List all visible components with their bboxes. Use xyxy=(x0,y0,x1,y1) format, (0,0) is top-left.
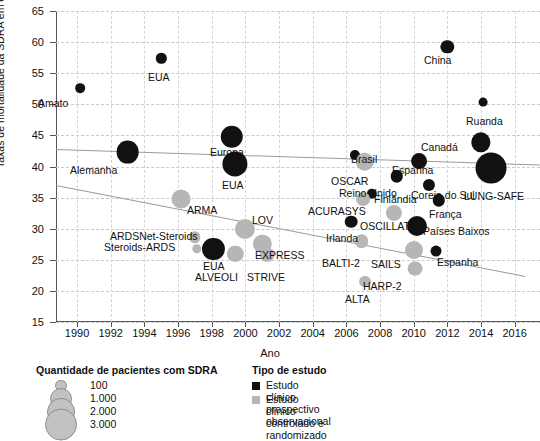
data-point-bubble[interactable] xyxy=(345,216,358,229)
data-point-bubble[interactable] xyxy=(221,125,243,147)
x-tick-label: 1994 xyxy=(132,327,156,339)
size-legend-bubble xyxy=(45,408,78,441)
x-axis-title: Ano xyxy=(0,347,540,359)
type-legend-item: Estudo clínico prospectivo observacional xyxy=(252,379,326,393)
gridline-horizontal xyxy=(56,167,540,168)
y-tick-label: 35 xyxy=(0,192,44,204)
size-legend-label: 100 xyxy=(90,379,108,391)
data-point-label: Irlanda xyxy=(326,232,358,244)
gridline-horizontal xyxy=(56,135,540,136)
gridline-vertical xyxy=(178,11,179,322)
data-point-label: EUA xyxy=(222,179,244,191)
y-tick-label: 65 xyxy=(0,5,44,17)
data-point-bubble[interactable] xyxy=(408,261,423,276)
y-axis-title: Taxas de mortalidade da SDRA em estudos … xyxy=(0,0,6,168)
x-tick-label: 2002 xyxy=(267,327,291,339)
data-point-bubble[interactable] xyxy=(202,238,224,260)
x-tick-label: 1992 xyxy=(98,327,122,339)
gridline-horizontal xyxy=(56,322,540,323)
data-point-bubble[interactable] xyxy=(441,40,454,53)
data-point-bubble[interactable] xyxy=(116,141,139,164)
data-point-bubble[interactable] xyxy=(76,83,86,93)
y-tick-label: 15 xyxy=(0,316,44,328)
y-tick-label: 40 xyxy=(0,161,44,173)
x-tick-label: 2010 xyxy=(401,327,425,339)
data-point-label: OSCILLATE xyxy=(360,220,417,232)
data-point-bubble[interactable] xyxy=(385,205,401,221)
data-point-label: ARMA xyxy=(187,204,217,216)
gridline-vertical xyxy=(380,11,381,322)
data-point-label: Países Baixos xyxy=(423,225,490,237)
x-tick-label: 1996 xyxy=(166,327,190,339)
type-legend-swatch xyxy=(252,382,260,390)
data-point-label: LOV xyxy=(252,214,273,226)
data-point-label: ACURASYS xyxy=(308,205,366,217)
x-tick-label: 2008 xyxy=(368,327,392,339)
type-legend-rows: Estudo clínico prospectivo observacional… xyxy=(252,379,326,407)
type-legend-item: Estudo clínico controlado e randomizado xyxy=(252,393,326,407)
data-point-label: Amato xyxy=(38,97,68,109)
data-point-label: Canadá xyxy=(421,141,458,153)
data-point-bubble[interactable] xyxy=(478,97,487,106)
data-point-label: ALTA xyxy=(345,293,370,305)
gridline-horizontal xyxy=(56,11,540,12)
data-point-bubble[interactable] xyxy=(405,241,423,259)
type-legend-title: Tipo de estudo xyxy=(252,364,326,376)
gridline-horizontal xyxy=(56,42,540,43)
y-tick-label: 60 xyxy=(0,36,44,48)
x-tick-label: 2014 xyxy=(469,327,493,339)
x-tick-label: 1998 xyxy=(199,327,223,339)
data-point-label: SAILS xyxy=(371,258,401,270)
size-legend-label: 3.000 xyxy=(90,418,116,430)
data-point-label: HARP-2 xyxy=(363,280,402,292)
data-point-label: Ruanda xyxy=(466,115,503,127)
gridline-horizontal xyxy=(56,291,540,292)
x-tick-label: 2000 xyxy=(233,327,257,339)
gridline-vertical xyxy=(144,11,145,322)
data-point-label: STRIVE xyxy=(247,271,285,283)
data-point-label: Finlândia xyxy=(374,193,417,205)
data-point-label: Brasil xyxy=(351,153,377,165)
y-tick-label: 30 xyxy=(0,223,44,235)
data-point-label: França xyxy=(429,208,462,220)
gridline-vertical xyxy=(346,11,347,322)
size-legend: Quantidade de pacientes com SDRA 1001.00… xyxy=(36,364,217,431)
data-point-label: Steroids-ARDS xyxy=(104,241,175,253)
type-legend: Tipo de estudo Estudo clínico prospectiv… xyxy=(252,364,326,407)
data-point-label: China xyxy=(424,54,451,66)
x-tick-label: 2012 xyxy=(435,327,459,339)
data-point-bubble[interactable] xyxy=(476,152,507,183)
x-tick-label: 2016 xyxy=(502,327,526,339)
type-legend-swatch xyxy=(252,396,260,404)
type-legend-label: Estudo clínico controlado e randomizado xyxy=(266,393,327,441)
x-tick-label: 2006 xyxy=(334,327,358,339)
size-legend-item: 3.000 xyxy=(36,418,217,431)
data-point-label: BALTI-2 xyxy=(322,257,360,269)
data-point-label: LUNG-SAFE xyxy=(464,190,524,202)
data-point-label: Espanha xyxy=(392,164,433,176)
data-point-label: Alemanha xyxy=(70,164,117,176)
gridline-vertical xyxy=(313,11,314,322)
data-point-label: EUA xyxy=(148,71,170,83)
data-point-label: Espanha xyxy=(437,256,478,268)
gridline-horizontal xyxy=(56,73,540,74)
data-point-bubble[interactable] xyxy=(471,133,490,152)
y-tick-label: 45 xyxy=(0,129,44,141)
data-point-bubble[interactable] xyxy=(192,244,201,253)
size-legend-label: 2.000 xyxy=(90,405,116,417)
data-point-bubble[interactable] xyxy=(430,246,441,257)
x-tick-label: 1990 xyxy=(65,327,89,339)
size-legend-rows: 1001.0002.0003.000 xyxy=(36,379,217,431)
data-point-label: EXPRESS xyxy=(255,249,305,261)
data-point-label: ALVEOLI xyxy=(195,271,238,283)
plot-area: AmatoEUAAlemanhaEuropaEUAEUAChinaRuandaC… xyxy=(56,11,540,322)
data-point-bubble[interactable] xyxy=(156,53,166,63)
data-point-label: Europa xyxy=(210,146,244,158)
size-legend-label: 1.000 xyxy=(90,392,116,404)
gridline-horizontal xyxy=(56,104,540,105)
y-tick-label: 25 xyxy=(0,254,44,266)
y-tick-label: 55 xyxy=(0,67,44,79)
data-point-label: OSCAR xyxy=(331,175,368,187)
gridline-vertical xyxy=(515,11,516,322)
